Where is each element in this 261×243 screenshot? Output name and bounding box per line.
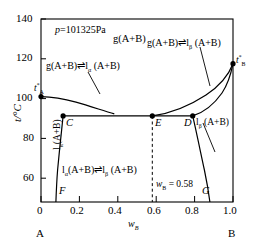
corner-label-a: A bbox=[36, 228, 44, 239]
tb-star: * bbox=[239, 54, 242, 60]
right-liquid-band-label: lβ (A+B) bbox=[196, 118, 229, 130]
right-band-components: (A+B) bbox=[202, 117, 229, 127]
leader-line-alpha bbox=[88, 72, 100, 94]
point-label-g: G bbox=[202, 186, 210, 197]
y-tick-label-100: 100 bbox=[16, 92, 33, 103]
beta-equilibrium-label: g(A+B)⇌lβ (A+B) bbox=[147, 38, 221, 50]
x-tick-label-10: 1.0 bbox=[223, 205, 237, 216]
point-label-f: F bbox=[59, 186, 65, 197]
alpha-eq-components: (A+B) bbox=[91, 60, 120, 71]
leader-line-beta bbox=[200, 47, 210, 86]
marker-c bbox=[61, 113, 66, 118]
boiling-point-b-label: t*B bbox=[236, 55, 246, 68]
tb-subscript: B bbox=[242, 61, 246, 67]
beta-eq-gas: g(A+B) bbox=[147, 37, 178, 48]
two-liquid-comp2: (A+B) bbox=[108, 164, 137, 175]
left-band-sub: α bbox=[58, 144, 64, 147]
x-tick-label-0: 0 bbox=[37, 205, 43, 216]
x-tick-label-02: 0.2 bbox=[70, 205, 84, 216]
composition-value: = 0.58 bbox=[166, 179, 193, 189]
pressure-annotation: p=101325Pa bbox=[55, 25, 106, 35]
point-label-e: E bbox=[155, 118, 161, 129]
corner-label-b: B bbox=[228, 228, 235, 239]
beta-eq-components: (A+B) bbox=[192, 37, 221, 48]
dew-curve-alpha bbox=[41, 97, 114, 114]
y-axis-title: t/°C bbox=[12, 104, 23, 122]
x-tick-label-06: 0.6 bbox=[147, 205, 161, 216]
left-band-l: l bbox=[52, 147, 62, 150]
point-label-d: D bbox=[184, 118, 192, 129]
x-axis-title: wB bbox=[128, 219, 138, 231]
y-tick-label-60: 60 bbox=[23, 172, 34, 183]
ta-subscript: A bbox=[40, 89, 44, 95]
marker-tb bbox=[230, 61, 235, 66]
x-axis-title-sub: B bbox=[135, 224, 139, 231]
boiling-point-a-label: t*A bbox=[34, 83, 44, 96]
y-tick-label-140: 140 bbox=[16, 13, 33, 24]
x-axis-ticks bbox=[41, 196, 233, 202]
point-label-c: C bbox=[66, 118, 73, 129]
alpha-equilibrium-label: g(A+B)⇌lα (A+B) bbox=[46, 61, 120, 73]
composition-annotation: wB = 0.58 bbox=[156, 180, 193, 192]
y-tick-label-120: 120 bbox=[16, 52, 33, 63]
left-liquid-band-label: lα(A+B) bbox=[53, 119, 65, 150]
gas-region-label: g(A+B) bbox=[113, 34, 146, 45]
phase-diagram-figure: 140 120 100 80 60 t/°C 0 0.2 0.4 0.6 0.8… bbox=[0, 0, 261, 243]
two-liquid-region-label: lα(A+B)⇌lβ (A+B) bbox=[62, 165, 137, 177]
two-liquid-comp1: (A+B) bbox=[68, 164, 94, 175]
beta-eq-arrow: ⇌ bbox=[178, 37, 186, 48]
dew-curve-beta bbox=[152, 64, 233, 116]
alpha-eq-gas: g(A+B) bbox=[46, 60, 77, 71]
ta-star: * bbox=[37, 82, 40, 88]
left-band-components: (A+B) bbox=[52, 119, 62, 144]
x-axis-title-w: w bbox=[128, 218, 135, 229]
alpha-eq-arrow: ⇌ bbox=[77, 60, 85, 71]
y-tick-label-80: 80 bbox=[23, 132, 34, 143]
pressure-value: =101325Pa bbox=[60, 24, 106, 35]
x-tick-label-04: 0.4 bbox=[108, 205, 122, 216]
x-tick-label-08: 0.8 bbox=[185, 205, 199, 216]
